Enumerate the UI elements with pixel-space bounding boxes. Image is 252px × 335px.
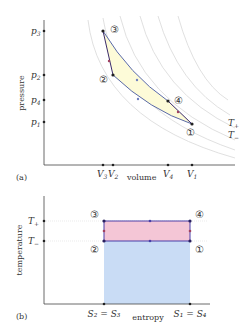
xtick-v1: V1 — [187, 169, 197, 180]
point-3-label: ③ — [110, 24, 119, 35]
ytick-p4: p4 — [31, 95, 41, 106]
xtick-v3: V3 — [97, 169, 108, 180]
ts-point-2-label: ② — [90, 244, 99, 255]
xtick-v2: V2 — [108, 169, 119, 180]
isotherm-t-minus-label: T− — [228, 130, 239, 141]
ts-point-1-label: ① — [195, 244, 204, 255]
point-4-label: ④ — [174, 95, 183, 106]
pv-xlabel: volume — [126, 173, 157, 182]
pv-ylabel: pressure — [17, 75, 26, 111]
thermo-cycle-diagram: ③ ② ④ ① T+ T− p3 p2 p4 p1 V3 V2 V4 V1 vo… — [0, 0, 252, 335]
panel-b-caption: (b) — [16, 312, 27, 321]
point-2-label: ② — [99, 74, 108, 85]
isotherm-t-plus-label: T+ — [228, 118, 239, 129]
ytick-p1: p1 — [31, 117, 41, 128]
ytick-p3: p3 — [31, 26, 41, 37]
work-area — [104, 221, 190, 241]
ytick-t-minus: T− — [28, 236, 39, 247]
ts-ylabel: temperature — [15, 224, 24, 275]
ytick-p2: p2 — [31, 70, 41, 81]
ts-point-4-label: ④ — [195, 209, 204, 220]
xtick-v4: V4 — [163, 169, 174, 180]
panel-a-caption: (a) — [16, 173, 27, 182]
xtick-s2-s3: S₂ = S₃ — [88, 309, 121, 319]
point-1-label: ① — [186, 127, 195, 138]
ts-point-3-label: ③ — [90, 209, 99, 220]
rejected-heat-area — [104, 241, 190, 304]
ts-xlabel: entropy — [132, 313, 164, 322]
pv-diagram: ③ ② ④ ① T+ T− p3 p2 p4 p1 V3 V2 V4 V1 vo… — [16, 16, 239, 182]
ytick-t-plus: T+ — [28, 216, 39, 227]
ts-diagram: ③ ④ ② ① T+ T− S₂ = S₃ S₁ = S₄ entropy te… — [15, 196, 210, 322]
isotherms — [88, 16, 235, 158]
xtick-s1-s4: S₁ = S₄ — [174, 309, 207, 319]
